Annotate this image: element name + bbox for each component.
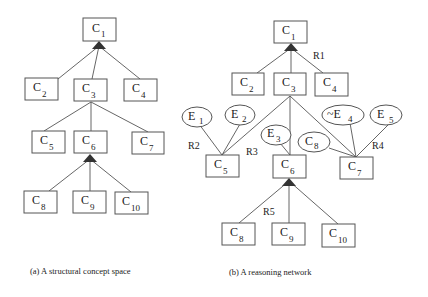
evidence-e1: E 1 <box>182 107 212 127</box>
svg-text:C: C <box>81 193 89 207</box>
svg-text:6: 6 <box>290 166 295 176</box>
svg-text:3: 3 <box>291 84 296 94</box>
svg-text:E: E <box>377 107 384 121</box>
node-c6: C 6 <box>74 131 107 153</box>
svg-text:C: C <box>282 75 290 89</box>
node-c8: C 8 <box>24 191 57 213</box>
figure-a-edges <box>44 46 148 192</box>
svg-text:3: 3 <box>91 90 96 100</box>
svg-text:~E: ~E <box>327 107 341 121</box>
node-c8: C 8 <box>222 223 255 245</box>
evidence-not-e4: ~E 4 <box>322 105 364 125</box>
svg-text:C: C <box>32 193 40 207</box>
node-c5: C 5 <box>32 131 65 153</box>
node-c4: C 4 <box>124 79 157 101</box>
svg-text:9: 9 <box>289 234 294 244</box>
svg-text:5: 5 <box>223 166 228 176</box>
node-c3: C 3 <box>74 79 107 101</box>
figure-b: C 1 C 2 C 3 C 4 C 5 C 6 C <box>182 21 402 277</box>
svg-text:7: 7 <box>357 168 362 178</box>
evidence-e2: E 2 <box>225 105 255 125</box>
svg-text:4: 4 <box>141 90 146 100</box>
svg-text:C: C <box>323 75 331 89</box>
caption-b: (b) A reasoning network <box>229 267 312 277</box>
svg-text:C: C <box>348 159 356 173</box>
svg-text:9: 9 <box>90 202 95 212</box>
svg-text:1: 1 <box>291 32 296 42</box>
svg-text:C: C <box>281 157 289 171</box>
svg-text:10: 10 <box>338 235 348 245</box>
and-connector-icon <box>92 41 106 49</box>
and-connector-icon <box>284 43 298 51</box>
svg-text:C: C <box>82 133 90 147</box>
svg-text:C: C <box>82 81 90 95</box>
svg-text:E: E <box>188 109 195 123</box>
node-c1: C 1 <box>83 18 116 41</box>
svg-text:5: 5 <box>49 142 54 152</box>
evidence-e5: E 5 <box>370 105 402 125</box>
rule-label-r4: R4 <box>372 140 384 151</box>
node-c9: C 9 <box>73 191 106 213</box>
node-c10: C 10 <box>322 224 355 247</box>
svg-text:C: C <box>122 194 130 208</box>
svg-text:4: 4 <box>332 84 337 94</box>
node-c7: C 7 <box>340 157 373 179</box>
svg-text:C: C <box>140 134 148 148</box>
svg-text:C: C <box>280 225 288 239</box>
evidence-e3: E 3 <box>261 125 291 145</box>
evidence-c8: C 8 <box>298 132 330 152</box>
svg-text:2: 2 <box>249 84 254 94</box>
rule-label-r5: R5 <box>263 206 275 217</box>
svg-text:4: 4 <box>348 114 353 124</box>
and-connector-icon <box>83 154 97 162</box>
svg-text:C: C <box>282 23 290 37</box>
svg-text:2: 2 <box>42 89 47 99</box>
svg-text:8: 8 <box>41 202 46 212</box>
svg-text:1: 1 <box>101 29 106 39</box>
svg-text:C: C <box>230 225 238 239</box>
svg-text:C: C <box>305 134 313 148</box>
figure-a: C 1 C 2 C 3 C 4 C 5 C 6 C <box>24 18 164 276</box>
node-c1: C 1 <box>274 21 307 43</box>
svg-text:C: C <box>132 81 140 95</box>
node-c7: C 7 <box>132 132 164 154</box>
svg-text:C: C <box>40 133 48 147</box>
svg-text:C: C <box>92 21 100 35</box>
svg-text:1: 1 <box>199 116 204 126</box>
node-c5: C 5 <box>206 155 239 177</box>
svg-text:C: C <box>240 75 248 89</box>
svg-text:C: C <box>214 157 222 171</box>
and-connector-icon <box>282 178 296 186</box>
rule-label-r2: R2 <box>188 140 200 151</box>
node-c2: C 2 <box>25 78 58 100</box>
rule-label-r3: R3 <box>246 146 258 157</box>
svg-text:5: 5 <box>389 115 394 125</box>
node-c2: C 2 <box>232 73 264 95</box>
svg-text:C: C <box>329 226 337 240</box>
svg-text:8: 8 <box>314 141 319 151</box>
node-c10: C 10 <box>115 192 148 214</box>
svg-text:10: 10 <box>131 203 141 213</box>
diagram-canvas: C 1 C 2 C 3 C 4 C 5 C 6 C <box>0 0 428 297</box>
svg-text:2: 2 <box>242 114 247 124</box>
svg-text:E: E <box>267 126 274 140</box>
svg-text:6: 6 <box>91 142 96 152</box>
node-c3: C 3 <box>274 73 306 95</box>
svg-text:8: 8 <box>239 234 244 244</box>
caption-a: (a) A structural concept space <box>30 266 131 276</box>
node-c6: C 6 <box>273 155 306 178</box>
svg-text:C: C <box>33 80 41 94</box>
svg-text:E: E <box>231 107 238 121</box>
svg-text:7: 7 <box>149 143 154 153</box>
rule-label-r1: R1 <box>313 50 325 61</box>
svg-text:3: 3 <box>276 134 281 144</box>
node-c9: C 9 <box>272 223 305 245</box>
node-c4: C 4 <box>315 73 348 96</box>
